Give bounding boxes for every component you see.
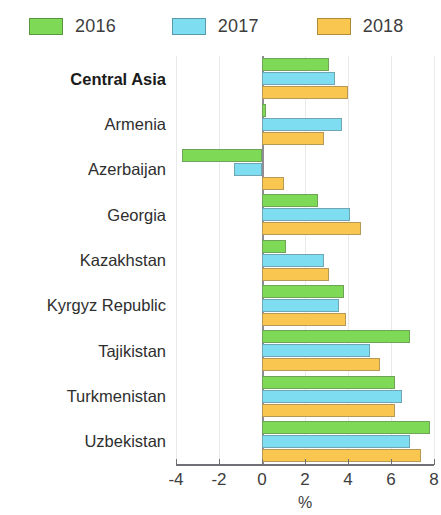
bar [262, 240, 286, 253]
bar [234, 163, 262, 176]
axis-tick [219, 459, 220, 465]
bar [262, 208, 350, 221]
category-label: Uzbekistan [84, 432, 166, 451]
bar [262, 222, 361, 235]
bar [262, 285, 344, 298]
legend-item-2016: 2016 [29, 16, 116, 37]
bar [262, 268, 329, 281]
bar [262, 376, 395, 389]
axis-tick-label: 2 [300, 470, 309, 490]
axis-tick [434, 459, 435, 465]
bar [262, 390, 402, 403]
bar [262, 86, 348, 99]
axis-title: % [298, 494, 312, 512]
bars-canvas [176, 56, 434, 464]
gridline--2 [219, 56, 220, 464]
bar [182, 149, 262, 162]
axis-tick-label: 4 [343, 470, 352, 490]
category-axis: Central AsiaArmeniaAzerbaijanGeorgiaKaza… [0, 56, 175, 464]
bar [262, 104, 266, 117]
bar [262, 404, 395, 417]
bar-chart: 2016 2017 2018 Central AsiaArmeniaAzerba… [0, 0, 441, 515]
gridline--4 [176, 56, 177, 464]
category-label: Armenia [105, 115, 166, 134]
legend-swatch-2017 [172, 18, 206, 35]
category-label: Kyrgyz Republic [47, 296, 166, 315]
axis-tick-label: 0 [257, 470, 266, 490]
gridline-8 [434, 56, 435, 464]
bar [262, 254, 324, 267]
bar [262, 177, 284, 190]
bar [262, 58, 329, 71]
bar [262, 344, 370, 357]
category-label: Georgia [107, 205, 166, 224]
axis-tick [262, 459, 263, 465]
axis-tick [305, 459, 306, 465]
legend-label-2018: 2018 [363, 16, 404, 37]
category-label: Tajikistan [98, 341, 166, 360]
axis-tick-label: -4 [168, 470, 183, 490]
bar [262, 313, 346, 326]
legend-swatch-2018 [317, 18, 351, 35]
category-label: Kazakhstan [80, 251, 166, 270]
axis-tick-label: -2 [211, 470, 226, 490]
axis-tick [176, 459, 177, 465]
bar [262, 194, 318, 207]
legend-label-2017: 2017 [218, 16, 259, 37]
plot-area: Central AsiaArmeniaAzerbaijanGeorgiaKaza… [0, 56, 441, 464]
bar [262, 358, 380, 371]
category-label: Turkmenistan [67, 387, 166, 406]
bar [262, 299, 339, 312]
axis-tick-label: 6 [386, 470, 395, 490]
legend-swatch-2016 [29, 18, 63, 35]
axis-tick [348, 459, 349, 465]
legend-item-2017: 2017 [172, 16, 259, 37]
axis-tick [391, 459, 392, 465]
category-label: Central Asia [70, 69, 166, 88]
bar [262, 132, 324, 145]
chart-legend: 2016 2017 2018 [0, 0, 441, 52]
bar [262, 449, 421, 462]
bar [262, 435, 410, 448]
legend-item-2018: 2018 [317, 16, 404, 37]
axis-tick-label: 8 [429, 470, 438, 490]
legend-label-2016: 2016 [75, 16, 116, 37]
bar [262, 72, 335, 85]
category-label: Azerbaijan [88, 160, 166, 179]
bar [262, 118, 342, 131]
bar [262, 421, 430, 434]
bar [262, 330, 410, 343]
